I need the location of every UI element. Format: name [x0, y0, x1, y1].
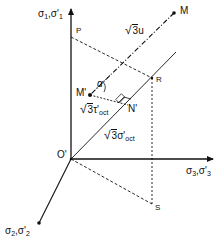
sigma2-axis-label: σ2,σ'2	[5, 226, 30, 237]
origin-dot	[70, 158, 73, 161]
stress-space-diagram	[0, 0, 224, 246]
point-s-label: S	[155, 204, 160, 212]
o-s-dashed	[71, 159, 152, 204]
sqrt3-tau-oct-label: √3τ'oct	[80, 103, 108, 116]
sqrt3-sigma-oct-label: √3σ'oct	[104, 129, 135, 142]
sqrt3-u-label: √3u	[125, 24, 144, 36]
sigma2-axis	[39, 159, 71, 223]
sigma3-axis-label: σ3,σ'3	[186, 166, 211, 177]
alpha-label: α	[97, 79, 103, 89]
point-nprime-label: N'	[128, 104, 137, 114]
point-r-dot	[151, 77, 153, 79]
p-r-dashed	[71, 37, 152, 78]
point-m-dot	[172, 11, 176, 15]
point-p-label: P	[76, 27, 81, 35]
sigma2-end-dot	[37, 221, 41, 225]
point-mprime-label: M'	[76, 88, 86, 98]
point-m-label: M	[180, 6, 188, 16]
point-r-label: R	[156, 76, 162, 84]
right-angle-box	[116, 94, 125, 103]
origin-label: O'	[57, 150, 67, 160]
sigma1-axis-label: σ1,σ'1	[38, 9, 63, 20]
alpha-arc	[103, 82, 105, 92]
